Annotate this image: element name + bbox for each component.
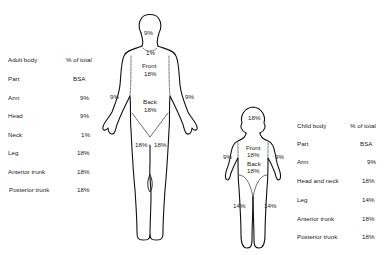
child-front-label: Front (246, 144, 261, 151)
child-front-value: 18% (247, 151, 260, 158)
adult-front-label: Front (142, 62, 157, 69)
child-right-arm-value: 9% (275, 153, 284, 160)
adult-left-leg-value: 18% (135, 141, 148, 148)
adult-neck-value: 1% (146, 49, 155, 56)
adult-right-leg-value: 18% (154, 141, 167, 148)
child-back-value: 18% (247, 167, 260, 174)
child-head-value: 18% (248, 114, 261, 121)
adult-right-arm-value: 9% (185, 93, 194, 100)
adult-back-label: Back (143, 98, 158, 105)
adult-left-arm-value: 9% (110, 93, 119, 100)
child-back-label: Back (247, 160, 262, 167)
child-left-arm-value: 9% (223, 153, 232, 160)
child-right-leg-value: 14% (264, 202, 277, 209)
adult-head-value: 9% (144, 29, 153, 36)
adult-front-value: 18% (144, 70, 157, 77)
child-body-figure (225, 107, 280, 248)
body-figures: 9% 1% Front 18% Back 18% 9% 9% 18% 18% 1… (0, 0, 388, 255)
adult-back-value: 18% (144, 106, 157, 113)
child-left-leg-value: 14% (233, 202, 246, 209)
